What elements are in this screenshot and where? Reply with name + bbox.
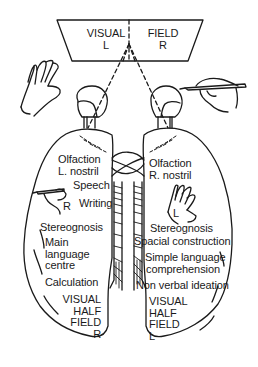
left-eyeball <box>77 86 107 128</box>
main-language-label-1: Main <box>45 237 68 248</box>
nonverbal-ideation-label: Non verbal ideation <box>136 280 229 291</box>
visual-field-left-label: VISUAL L <box>84 28 128 51</box>
left-vhf-4: R <box>50 329 101 340</box>
right-vhf-1: VISUAL <box>149 296 188 307</box>
sight-lines <box>88 44 168 128</box>
calculation-label: Calculation <box>45 277 98 288</box>
right-vhf-4: L <box>149 331 155 342</box>
right-hand-l-label: L <box>173 208 179 219</box>
writing-hand-icon <box>33 189 66 214</box>
left-nostril-label: L. nostril <box>58 166 99 177</box>
diagram-drawing <box>0 0 258 367</box>
right-nostril-label: R. nostril <box>149 170 191 181</box>
simple-language-label-2: comprehension <box>146 264 220 275</box>
left-olfaction-label: Olfaction <box>58 154 101 165</box>
olfactory-tract-marks <box>80 136 176 152</box>
right-hand-pen-icon <box>180 78 246 112</box>
left-hand-r-label: R <box>63 201 71 212</box>
field-word: FIELD <box>141 28 185 39</box>
optic-chiasm <box>112 152 144 176</box>
right-eyeball <box>151 86 182 128</box>
visual-field-right-side: R <box>141 40 185 51</box>
left-stereognosis-label: Stereognosis <box>40 222 103 233</box>
split-brain-diagram: VISUAL L FIELD R Olfaction L. nostril Sp… <box>0 0 258 367</box>
left-vhf-1: VISUAL <box>50 294 101 305</box>
visual-word: VISUAL <box>84 28 128 39</box>
left-vhf-3: FIELD <box>50 317 101 328</box>
left-raised-hand-icon <box>21 61 60 117</box>
spacial-construction-label: Spacial construction <box>134 236 230 247</box>
main-language-label-3: centre <box>45 260 75 271</box>
visual-field-left-side: L <box>84 40 128 51</box>
right-olfaction-label: Olfaction <box>149 158 192 169</box>
visual-field-right-label: FIELD R <box>141 28 185 51</box>
writing-label: Writing <box>79 198 112 209</box>
right-stereognosis-label: Stereognosis <box>150 223 213 234</box>
simple-language-label-1: Simple language <box>145 252 225 263</box>
speech-label: Speech <box>73 180 110 191</box>
right-vhf-3: FIELD <box>149 319 180 330</box>
